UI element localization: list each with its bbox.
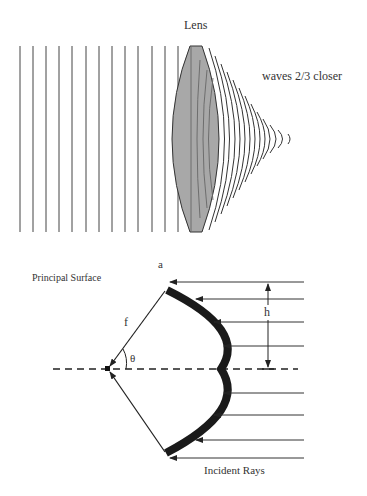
lens-label: Lens <box>184 18 208 32</box>
incident-rays <box>170 282 304 458</box>
waves-closer-label: waves 2/3 closer <box>262 69 342 83</box>
incident-rays-label: Incident Rays <box>204 464 265 476</box>
principal-surface-label: Principal Surface <box>32 272 102 283</box>
focal-ray-lower <box>110 372 165 452</box>
principal-surface-arc <box>166 290 228 453</box>
lens-shape <box>172 46 219 232</box>
theta-angle-arc <box>123 349 127 369</box>
top-panel-lens-diagram: Lens waves 2/3 closer <box>20 18 342 232</box>
plane-wavefronts <box>20 46 178 232</box>
focal-ray-upper <box>110 291 165 366</box>
bottom-panel-principal-surface: Principal Surface a f θ h <box>32 258 304 476</box>
lens-principal-surface-diagram: Lens waves 2/3 closer Principal Surface … <box>0 0 367 496</box>
focal-point <box>105 366 110 371</box>
theta-label: θ <box>130 352 135 364</box>
focal-length-label: f <box>124 315 128 329</box>
aperture-label: a <box>158 258 163 270</box>
height-label: h <box>264 305 270 319</box>
